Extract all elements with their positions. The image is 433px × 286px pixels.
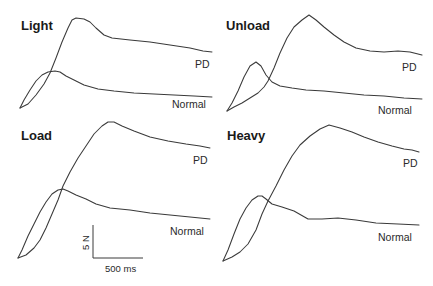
label-normal-unload: Normal bbox=[378, 104, 412, 116]
label-normal-load: Normal bbox=[170, 225, 204, 237]
label-normal-light: Normal bbox=[172, 98, 206, 110]
panel-title-light: Light bbox=[21, 18, 53, 33]
scale-label-time: 500 ms bbox=[105, 263, 136, 274]
scale-label-force: 5 N bbox=[80, 235, 91, 250]
panel-title-load: Load bbox=[21, 128, 52, 143]
background bbox=[0, 0, 433, 286]
label-pd-light: PD bbox=[195, 58, 210, 70]
label-pd-unload: PD bbox=[402, 61, 417, 73]
label-pd-load: PD bbox=[193, 154, 208, 166]
panel-title-unload: Unload bbox=[226, 18, 270, 33]
label-pd-heavy: PD bbox=[403, 157, 418, 169]
label-normal-heavy: Normal bbox=[378, 231, 412, 243]
panel-title-heavy: Heavy bbox=[227, 128, 266, 143]
force-trace-figure: Light PD Normal Unload PD Normal Load PD… bbox=[0, 0, 433, 286]
